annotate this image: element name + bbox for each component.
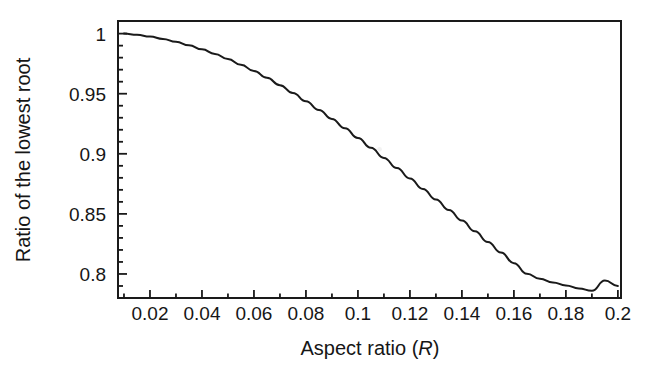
x-axis-tick-labels: 0.020.040.060.080.10.120.140.160.180.2 (131, 303, 631, 324)
x-tick-label: 0.02 (131, 303, 168, 324)
x-axis-title-text: Aspect ratio (301, 337, 407, 359)
chart-canvas: 0.020.040.060.080.10.120.140.160.180.2 0… (0, 0, 646, 382)
y-tick-label: 1 (95, 24, 106, 45)
x-tick-label: 0.08 (287, 303, 324, 324)
x-tick-label: 0.06 (235, 303, 272, 324)
y-axis-tick-labels: 0.80.850.90.951 (69, 24, 106, 285)
x-tick-label: 0.14 (443, 303, 480, 324)
x-tick-label: 0.16 (495, 303, 532, 324)
curve-gap-artifact (377, 147, 382, 152)
x-tick-label: 0.04 (183, 303, 220, 324)
y-axis-title: Ratio of the lowest root (12, 57, 34, 262)
x-tick-label: 0.2 (605, 303, 631, 324)
x-axis-title: Aspect ratio (R) (301, 337, 440, 359)
y-tick-label: 0.9 (80, 144, 106, 165)
y-axis-minor-ticks (118, 46, 123, 286)
figure-container: 0.020.040.060.080.10.120.140.160.180.2 0… (0, 0, 646, 382)
y-tick-label: 0.85 (69, 204, 106, 225)
plot-background (118, 21, 621, 298)
y-tick-label: 0.8 (80, 264, 106, 285)
x-axis-title-symbol: R (418, 337, 432, 359)
x-tick-label: 0.18 (547, 303, 584, 324)
x-tick-label: 0.1 (345, 303, 371, 324)
x-tick-label: 0.12 (391, 303, 428, 324)
y-tick-label: 0.95 (69, 84, 106, 105)
